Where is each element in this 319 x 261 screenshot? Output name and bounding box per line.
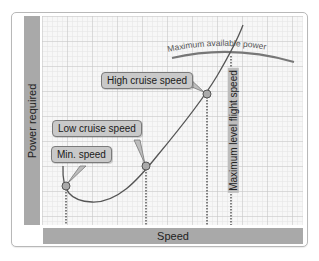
low-cruise-callout: Low cruise speed [52, 120, 142, 137]
plot-area: Maximum available power Min. speed Low c… [42, 16, 303, 225]
min-speed-point [62, 182, 70, 190]
low-cruise-point [142, 162, 150, 170]
min-speed-callout: Min. speed [51, 146, 112, 163]
x-axis-bar: Speed [43, 228, 303, 244]
x-axis-label: Speed [157, 230, 189, 242]
max-level-label: Maximum level flight speed [228, 68, 239, 193]
max-level-label-box: Maximum level flight speed [227, 60, 239, 200]
y-axis-label-box: Power required [24, 16, 40, 225]
high-cruise-callout: High cruise speed [101, 72, 193, 89]
y-axis-label: Power required [26, 83, 38, 158]
high-cruise-point [203, 90, 211, 98]
